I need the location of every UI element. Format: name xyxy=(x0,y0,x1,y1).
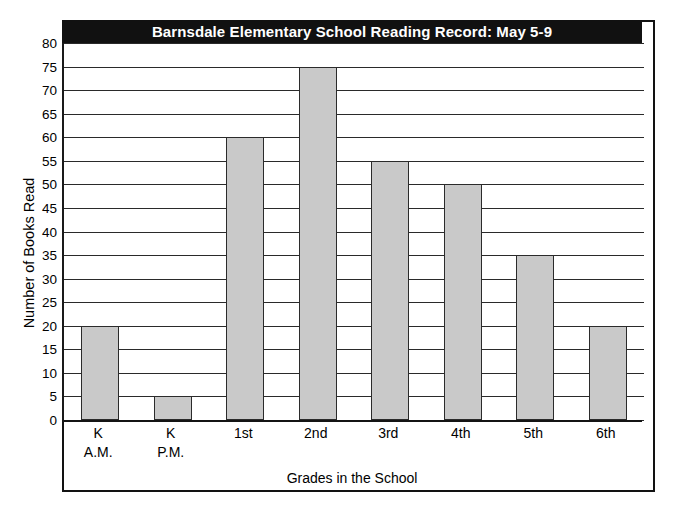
x-axis-tick-label-line1: 4th xyxy=(451,425,470,441)
y-axis-tick-label: 5 xyxy=(13,391,57,405)
y-axis-tick-label: 35 xyxy=(13,249,57,263)
x-axis-line xyxy=(62,420,642,422)
x-axis-tick-label-line2: P.M. xyxy=(157,443,184,462)
y-axis-tick-label: 65 xyxy=(13,108,57,122)
plot-area: 05101520253035404550556065707580 xyxy=(62,43,642,420)
bar xyxy=(444,184,482,420)
y-axis-tick-label: 25 xyxy=(13,296,57,310)
y-axis-tick-label: 50 xyxy=(13,179,57,193)
y-axis-tick-label: 15 xyxy=(13,344,57,358)
y-axis-tick-label: 75 xyxy=(13,61,57,75)
x-axis-tick-label-line1: 5th xyxy=(524,425,543,441)
y-axis-tick-label: 80 xyxy=(13,37,57,51)
chart-figure: Barnsdale Elementary School Reading Reco… xyxy=(0,0,683,512)
x-axis-tick-label-line1: 6th xyxy=(596,425,615,441)
y-axis-tick-label: 0 xyxy=(13,414,57,428)
x-axis-tick-label-line1: 2nd xyxy=(304,425,327,441)
y-axis-tick-label: 70 xyxy=(13,84,57,98)
bar xyxy=(81,326,119,420)
x-axis-tick-label: 3rd xyxy=(378,424,398,443)
bar xyxy=(589,326,627,420)
bars-layer xyxy=(64,43,644,420)
x-axis-tick-label-line1: 3rd xyxy=(378,425,398,441)
chart-title: Barnsdale Elementary School Reading Reco… xyxy=(152,23,552,40)
x-axis-tick-label-line1: K xyxy=(166,425,175,441)
x-axis-tick-labels: KA.M.KP.M.1st2nd3rd4th5th6th xyxy=(62,424,642,470)
x-axis-tick-label: 2nd xyxy=(304,424,327,443)
x-axis-tick-label: 4th xyxy=(451,424,470,443)
y-axis-tick-label: 60 xyxy=(13,132,57,146)
bar xyxy=(371,161,409,420)
y-axis-tick-label: 45 xyxy=(13,202,57,216)
y-axis-tick-label: 30 xyxy=(13,273,57,287)
y-axis-tick-label: 40 xyxy=(13,226,57,240)
x-axis-tick-label-line1: 1st xyxy=(234,425,253,441)
x-axis-tick-label: 6th xyxy=(596,424,615,443)
x-axis-tick-label: KA.M. xyxy=(84,424,113,462)
x-axis-tick-label: KP.M. xyxy=(157,424,184,462)
x-axis-tick-label-line1: K xyxy=(94,425,103,441)
chart-title-banner: Barnsdale Elementary School Reading Reco… xyxy=(62,20,642,43)
bar xyxy=(516,255,554,420)
bar xyxy=(299,67,337,420)
bar xyxy=(154,396,192,420)
x-axis-tick-label-line2: A.M. xyxy=(84,443,113,462)
bar xyxy=(226,137,264,420)
y-axis-tick-label: 10 xyxy=(13,367,57,381)
x-axis-tick-label: 1st xyxy=(234,424,253,443)
x-axis-tick-label: 5th xyxy=(524,424,543,443)
x-axis-title: Grades in the School xyxy=(62,470,642,486)
y-axis-tick-label: 55 xyxy=(13,155,57,169)
y-axis-tick-label: 20 xyxy=(13,320,57,334)
